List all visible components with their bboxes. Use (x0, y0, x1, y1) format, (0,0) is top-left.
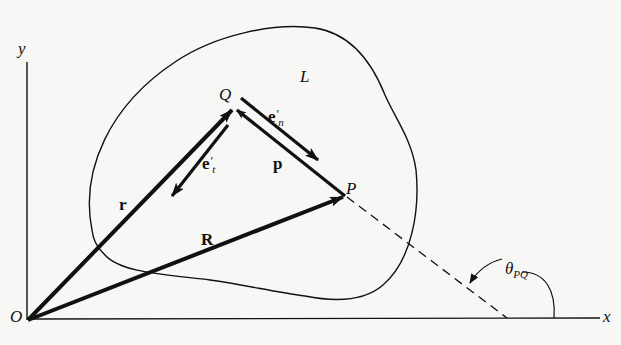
diagram-graphics (0, 0, 621, 345)
angle-theta-label: θPQ (505, 260, 528, 277)
vector-et-label: e′t (202, 155, 215, 172)
et-base: e (202, 154, 210, 173)
dashed-line-PQ-extension (347, 197, 507, 318)
region-L-boundary (89, 27, 417, 300)
vector-en-label: e′n (268, 108, 284, 125)
en-base: e (268, 107, 276, 126)
vector-r (28, 110, 232, 320)
vector-R (28, 197, 343, 320)
origin-label: O (10, 308, 22, 325)
vector-p-label: p (273, 155, 282, 172)
en-sub: n (278, 116, 284, 128)
angle-pointer-arrow (470, 259, 502, 283)
diagram-canvas: y x O L Q P r R p e′n e′t θPQ (0, 0, 621, 345)
vector-R-label: R (201, 231, 213, 248)
x-axis-label: x (603, 308, 611, 325)
point-P-label: P (346, 180, 356, 197)
region-label: L (300, 68, 309, 85)
x-axis (27, 318, 600, 319)
point-Q-label: Q (219, 86, 231, 103)
vector-r-label: r (119, 196, 127, 213)
vector-p (237, 110, 345, 196)
theta-sub: PQ (513, 268, 528, 280)
et-sub: t (212, 163, 215, 175)
y-axis-label: y (18, 40, 26, 57)
